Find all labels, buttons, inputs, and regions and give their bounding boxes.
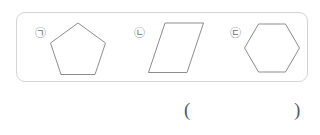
shape-item-pentagon: ㉠ bbox=[17, 13, 117, 83]
shape-label-circled-korean-digeut-icon: ㉢ bbox=[228, 27, 242, 41]
figure-box: ㉠ ㉡ ㉢ bbox=[16, 12, 308, 82]
answer-paren-open: ( bbox=[184, 99, 190, 121]
answer-paren-close: ) bbox=[294, 99, 300, 121]
parallelogram-outline-icon bbox=[147, 21, 205, 75]
shape-item-hexagon: ㉢ bbox=[213, 13, 309, 83]
hexagon-outline-icon bbox=[243, 21, 301, 75]
shape-item-parallelogram: ㉡ bbox=[117, 13, 213, 83]
pentagon-outline-icon bbox=[49, 21, 107, 75]
answer-blank-field[interactable] bbox=[196, 101, 292, 121]
shape-label-circled-korean-nieun-icon: ㉡ bbox=[132, 27, 146, 41]
answer-row: ( ) bbox=[170, 99, 310, 125]
shape-label-circled-korean-giyeok-icon: ㉠ bbox=[33, 27, 47, 41]
